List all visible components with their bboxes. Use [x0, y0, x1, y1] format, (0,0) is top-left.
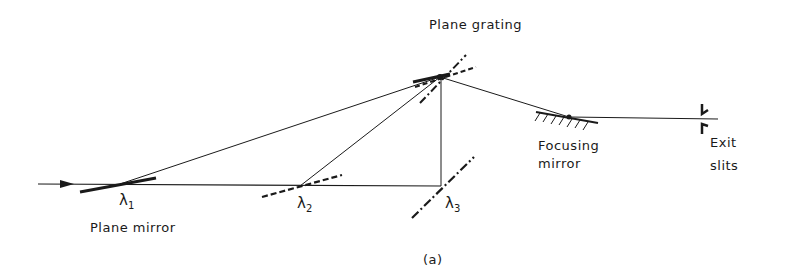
beam-to-exit-slits	[569, 117, 718, 119]
beam-arrow-icon	[60, 180, 74, 188]
focusing-mirror	[535, 112, 598, 130]
figure-caption: (a)	[423, 253, 443, 268]
beam-lambda1-to-grating	[120, 77, 440, 184]
plane-mirror-label: Plane mirror	[90, 221, 176, 236]
lambda3-label: λ3	[445, 194, 460, 214]
beam-grating-to-focusing-mirror	[440, 77, 569, 117]
focusing-mirror-label-line2: mirror	[538, 157, 581, 172]
focusing-mirror-label-line1: Focusing	[538, 139, 599, 154]
optical-diagram	[0, 0, 785, 280]
lambda1-label: λ1	[119, 191, 134, 211]
input-beam	[38, 184, 441, 186]
lambda2-label: λ2	[297, 194, 312, 214]
plane-grating-label: Plane grating	[429, 18, 522, 33]
exit-slits-label-line2: slits	[710, 159, 738, 174]
lambda3-mirror-dashdot	[412, 157, 474, 218]
beam-lambda2-to-grating	[300, 77, 440, 186]
exit-slits-label-line1: Exit	[710, 136, 737, 151]
